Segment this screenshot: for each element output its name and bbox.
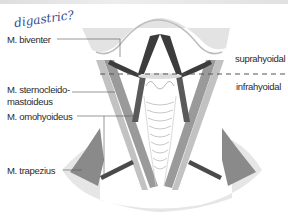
label-sternocleidomastoideus-line1: M. sternocleido- — [7, 84, 70, 95]
biventer-anterior-left — [138, 34, 160, 74]
thyroid-cartilage — [146, 81, 174, 89]
clavicle-line — [100, 188, 228, 193]
omohyoideus-left — [100, 160, 134, 180]
omohyoideus-right — [188, 160, 222, 180]
biventer-anterior-right — [160, 34, 182, 74]
infrahyoid-right — [176, 76, 190, 122]
label-trapezius: M. trapezius — [7, 165, 55, 176]
sternocleidomastoideus-left — [104, 60, 158, 188]
label-biventer: M. biventer — [7, 34, 51, 45]
label-omohyoideus: M. omohyoideus — [7, 111, 73, 122]
sternocleidomastoideus-right — [164, 60, 216, 188]
trachea-rings — [146, 102, 174, 169]
neck-muscle-diagram — [0, 0, 288, 219]
label-suprahyoidal: suprahyoidal — [235, 53, 285, 64]
label-infrahyoidal: infrahyoidal — [236, 81, 281, 92]
label-sternocleidomastoideus-line2: mastoideus — [7, 96, 53, 107]
